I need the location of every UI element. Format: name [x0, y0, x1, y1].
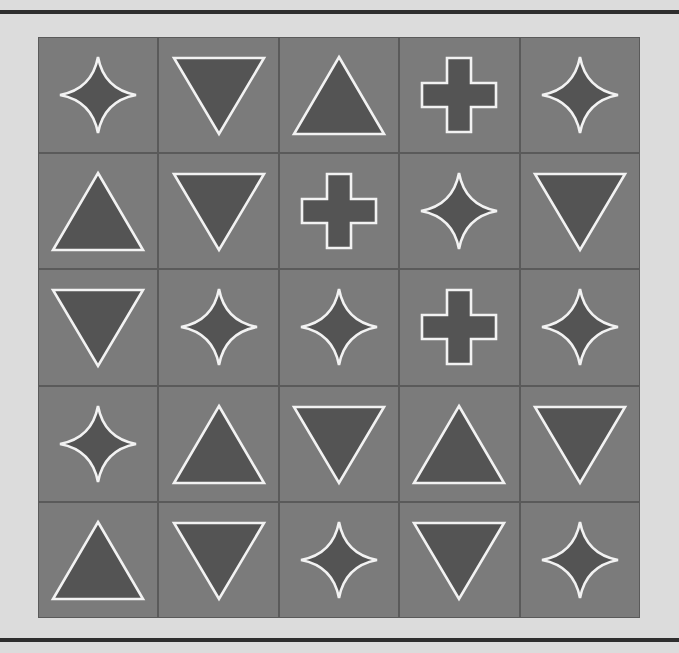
- board-cell-r1-c1[interactable]: [39, 38, 157, 152]
- board-cell-r1-c3[interactable]: [280, 38, 398, 152]
- board-cell-r4-c1[interactable]: [39, 387, 157, 501]
- star4-icon: [530, 45, 630, 145]
- board-cell-r2-c5[interactable]: [521, 154, 639, 268]
- star4-icon: [530, 277, 630, 377]
- board-cell-r5-c1[interactable]: [39, 503, 157, 617]
- board-cell-r2-c4[interactable]: [400, 154, 518, 268]
- board-cell-r3-c3[interactable]: [280, 270, 398, 384]
- board-cell-r1-c2[interactable]: [159, 38, 277, 152]
- board-cell-r2-c1[interactable]: [39, 154, 157, 268]
- triangle-down-icon: [48, 277, 148, 377]
- star4-icon: [289, 277, 389, 377]
- star4-icon: [289, 510, 389, 610]
- triangle-down-icon: [530, 161, 630, 261]
- triangle-down-icon: [409, 510, 509, 610]
- board-cell-r1-c4[interactable]: [400, 38, 518, 152]
- triangle-up-icon: [409, 394, 509, 494]
- triangle-up-icon: [169, 394, 269, 494]
- board-cell-r4-c3[interactable]: [280, 387, 398, 501]
- bottom-frame-bar: [0, 638, 679, 642]
- star4-icon: [48, 394, 148, 494]
- triangle-up-icon: [48, 510, 148, 610]
- board-cell-r3-c1[interactable]: [39, 270, 157, 384]
- triangle-down-icon: [530, 394, 630, 494]
- star4-icon: [48, 45, 148, 145]
- board-cell-r5-c4[interactable]: [400, 503, 518, 617]
- star4-icon: [530, 510, 630, 610]
- plus-icon: [289, 161, 389, 261]
- board-cell-r4-c5[interactable]: [521, 387, 639, 501]
- board-cell-r3-c2[interactable]: [159, 270, 277, 384]
- triangle-down-icon: [169, 45, 269, 145]
- star4-icon: [409, 161, 509, 261]
- triangle-down-icon: [289, 394, 389, 494]
- plus-icon: [409, 45, 509, 145]
- plus-icon: [409, 277, 509, 377]
- top-frame-bar: [0, 10, 679, 14]
- triangle-down-icon: [169, 161, 269, 261]
- board-cell-r3-c5[interactable]: [521, 270, 639, 384]
- board-cell-r4-c4[interactable]: [400, 387, 518, 501]
- game-board: [38, 37, 640, 618]
- board-cell-r2-c2[interactable]: [159, 154, 277, 268]
- board-cell-r5-c2[interactable]: [159, 503, 277, 617]
- board-cell-r3-c4[interactable]: [400, 270, 518, 384]
- triangle-up-icon: [289, 45, 389, 145]
- board-cell-r5-c5[interactable]: [521, 503, 639, 617]
- star4-icon: [169, 277, 269, 377]
- board-cell-r5-c3[interactable]: [280, 503, 398, 617]
- triangle-down-icon: [169, 510, 269, 610]
- board-cell-r4-c2[interactable]: [159, 387, 277, 501]
- board-cell-r2-c3[interactable]: [280, 154, 398, 268]
- board-cell-r1-c5[interactable]: [521, 38, 639, 152]
- triangle-up-icon: [48, 161, 148, 261]
